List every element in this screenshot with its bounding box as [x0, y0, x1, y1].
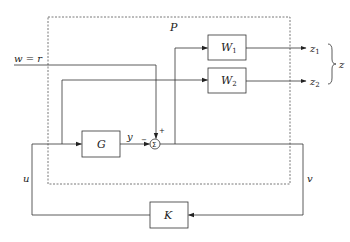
label-y: y [126, 131, 133, 142]
block-k: K [150, 202, 188, 228]
block-diagram: P W1 W2 G K Σ + − [0, 0, 350, 242]
block-w1: W1 [208, 35, 246, 60]
block-w2: W2 [208, 68, 246, 93]
z-brace [328, 44, 336, 84]
label-u: u [23, 173, 29, 184]
minus-sign: − [141, 136, 147, 144]
svg-text:K: K [163, 209, 173, 222]
signal-to-w1 [175, 48, 208, 144]
plus-sign: + [159, 127, 165, 135]
label-z: z [338, 59, 345, 70]
svg-text:G: G [97, 138, 106, 151]
label-v: v [307, 173, 313, 184]
label-z2: z2 [309, 76, 320, 89]
summing-junction: Σ + − [141, 127, 165, 149]
label-w: w = r [14, 53, 43, 64]
label-z1: z1 [309, 43, 320, 56]
signal-w-line [14, 65, 156, 139]
block-g: G [82, 131, 120, 157]
svg-text:Σ: Σ [152, 141, 156, 149]
plant-label: P [169, 21, 178, 34]
plant-boundary [48, 17, 290, 184]
